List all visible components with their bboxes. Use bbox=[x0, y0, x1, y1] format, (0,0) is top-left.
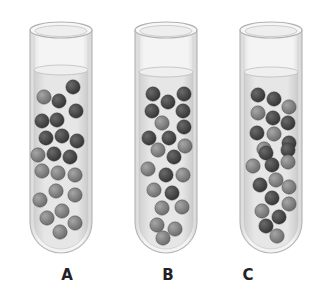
dark-particle bbox=[250, 126, 264, 140]
dark-particle bbox=[177, 120, 191, 134]
light-particle bbox=[269, 173, 283, 187]
light-particle bbox=[270, 229, 284, 243]
dark-particle bbox=[165, 186, 179, 200]
light-particle bbox=[55, 204, 69, 218]
light-particle bbox=[176, 168, 190, 182]
dark-particle bbox=[272, 210, 286, 224]
light-particle bbox=[40, 211, 54, 225]
dark-particle bbox=[251, 88, 265, 102]
dark-particle bbox=[176, 104, 190, 118]
light-particle bbox=[49, 184, 63, 198]
dark-particle bbox=[50, 113, 64, 127]
light-particle bbox=[178, 139, 192, 153]
light-particle bbox=[37, 90, 51, 104]
test-tube-diagram bbox=[0, 0, 325, 291]
dark-particle bbox=[162, 131, 176, 145]
dark-particle bbox=[159, 168, 173, 182]
dark-particle bbox=[63, 150, 77, 164]
dark-particle bbox=[259, 219, 273, 233]
light-particle bbox=[53, 225, 67, 239]
dark-particle bbox=[267, 92, 281, 106]
dark-particle bbox=[253, 178, 267, 192]
light-particle bbox=[246, 159, 260, 173]
dark-particle bbox=[265, 191, 279, 205]
tube-label-c: C bbox=[238, 266, 258, 284]
liquid-surface bbox=[34, 65, 88, 75]
tubes-group bbox=[30, 22, 302, 253]
light-particle bbox=[155, 116, 169, 130]
dark-particle bbox=[69, 104, 83, 118]
dark-particle bbox=[55, 129, 69, 143]
light-particle bbox=[156, 231, 170, 245]
light-particle bbox=[267, 127, 281, 141]
dark-particle bbox=[146, 87, 160, 101]
liquid-surface bbox=[244, 67, 298, 77]
light-particle bbox=[282, 100, 296, 114]
dark-particle bbox=[177, 87, 191, 101]
light-particle bbox=[147, 183, 161, 197]
light-particle bbox=[35, 164, 49, 178]
dark-particle bbox=[167, 150, 181, 164]
dark-particle bbox=[281, 116, 295, 130]
light-particle bbox=[68, 168, 82, 182]
light-particle bbox=[33, 193, 47, 207]
dark-particle bbox=[142, 131, 156, 145]
light-particle bbox=[51, 166, 65, 180]
light-particle bbox=[175, 200, 189, 214]
light-particle bbox=[68, 216, 82, 230]
light-particle bbox=[168, 222, 182, 236]
light-particle bbox=[68, 188, 82, 202]
dark-particle bbox=[266, 111, 280, 125]
dark-particle bbox=[47, 147, 61, 161]
light-particle bbox=[282, 197, 296, 211]
test-tube-b bbox=[135, 22, 197, 253]
dark-particle bbox=[161, 95, 175, 109]
dark-particle bbox=[39, 131, 53, 145]
light-particle bbox=[150, 218, 164, 232]
light-particle bbox=[282, 180, 296, 194]
test-tube-a bbox=[30, 22, 92, 253]
light-particle bbox=[281, 155, 295, 169]
light-particle bbox=[251, 106, 265, 120]
dark-particle bbox=[35, 114, 49, 128]
liquid-surface bbox=[139, 67, 193, 77]
dark-particle bbox=[52, 94, 66, 108]
tube-label-b: B bbox=[158, 266, 178, 284]
dark-particle bbox=[265, 158, 279, 172]
dark-particle bbox=[66, 80, 80, 94]
light-particle bbox=[31, 148, 45, 162]
dark-particle bbox=[70, 134, 84, 148]
light-particle bbox=[255, 204, 269, 218]
light-particle bbox=[151, 143, 165, 157]
light-particle bbox=[155, 201, 169, 215]
tube-label-a: A bbox=[57, 266, 77, 284]
dark-particle bbox=[145, 104, 159, 118]
light-particle bbox=[141, 162, 155, 176]
test-tube-c bbox=[240, 22, 302, 253]
